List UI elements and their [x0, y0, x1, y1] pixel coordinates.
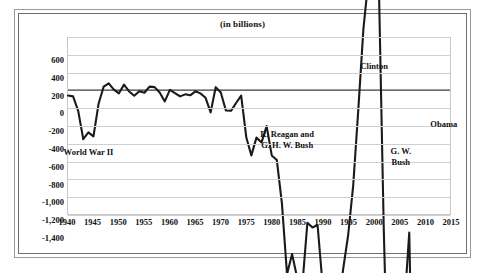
x-tick-label: 1990: [315, 217, 332, 227]
y-tick-label: 0: [21, 108, 67, 118]
plot-area: [67, 37, 451, 215]
y-tick-label: -800: [21, 180, 67, 190]
y-tick-label: -1,400: [21, 233, 67, 243]
x-axis-labels: 1940194519501955196019651970197519801985…: [67, 217, 451, 233]
x-tick-label: 1945: [84, 217, 101, 227]
gridline: [68, 197, 450, 198]
annotation-reagan-line2: G. H. W. Bush: [261, 140, 313, 150]
y-axis-labels: 6004002000-200-400-600-800-1,000-1,200-1…: [19, 37, 67, 215]
gridline: [68, 73, 450, 74]
y-tick-label: 200: [21, 91, 67, 101]
chart-figure-inner: (in billions) 6004002000-200-400-600-800…: [18, 13, 467, 254]
x-tick-label: 1940: [59, 217, 76, 227]
gridline: [68, 179, 450, 180]
x-tick-label: 1975: [238, 217, 255, 227]
y-tick-label: 600: [21, 55, 67, 65]
x-tick-label: 1995: [340, 217, 357, 227]
annotation-gwbush-line2: Bush: [392, 157, 410, 167]
annotation-gw-bush: G. W. Bush: [391, 146, 412, 168]
annotation-reagan-line1: R. Reagan and: [260, 129, 314, 139]
chart-figure-frame: (in billions) 6004002000-200-400-600-800…: [14, 9, 471, 258]
y-tick-label: -200: [21, 126, 67, 136]
gridline: [68, 108, 450, 109]
gridline: [68, 126, 450, 127]
annotation-gwbush-line1: G. W.: [391, 146, 412, 156]
x-tick-label: 2005: [391, 217, 408, 227]
gridline: [68, 37, 450, 38]
x-tick-label: 1955: [135, 217, 152, 227]
y-tick-label: -600: [21, 162, 67, 172]
chart-title: (in billions): [19, 19, 466, 29]
y-tick-label: -400: [21, 144, 67, 154]
x-tick-label: 2000: [366, 217, 383, 227]
x-tick-label: 1985: [289, 217, 306, 227]
annotation-world-war-ii: World War II: [64, 147, 114, 158]
x-tick-label: 1960: [161, 217, 178, 227]
y-tick-label: -1,000: [21, 197, 67, 207]
x-tick-label: 2015: [443, 217, 460, 227]
annotation-obama: Obama: [430, 119, 457, 130]
annotation-reagan-bush: R. Reagan and G. H. W. Bush: [260, 129, 314, 151]
annotation-clinton: Clinton: [360, 61, 387, 72]
gridline: [68, 144, 450, 145]
x-tick-label: 1980: [263, 217, 280, 227]
x-tick-label: 1970: [212, 217, 229, 227]
gridline: [68, 55, 450, 56]
x-tick-label: 1950: [110, 217, 127, 227]
y-tick-label: 400: [21, 73, 67, 83]
x-tick-label: 1965: [187, 217, 204, 227]
x-tick-label: 2010: [417, 217, 434, 227]
gridline: [68, 215, 450, 216]
